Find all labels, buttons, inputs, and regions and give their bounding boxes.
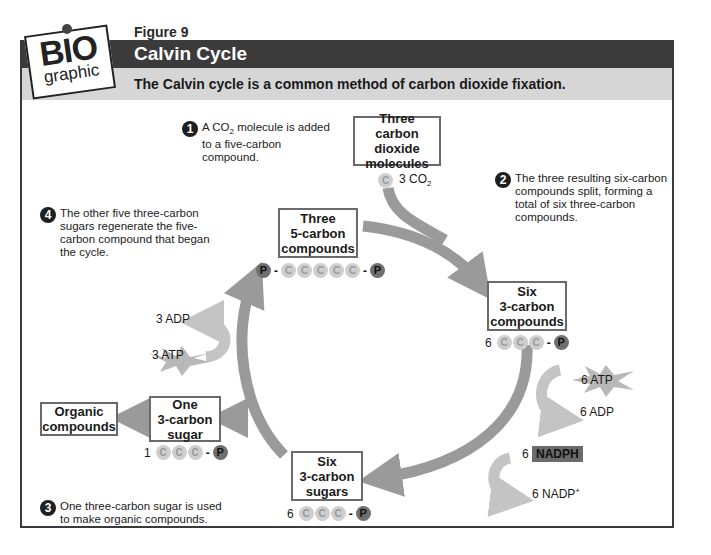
atp6-label: 6 ATP <box>581 373 613 387</box>
six-compounds-box: Six3-carboncompounds <box>487 281 567 331</box>
step-4-number: 4 <box>40 207 56 223</box>
atp3-label: 3 ATP <box>152 348 184 362</box>
nadp-label: 6 NADP+ <box>532 486 580 501</box>
organic-compounds-box: Organiccompounds <box>40 402 118 436</box>
one-sugar-box: One3-carbonsugar <box>149 396 221 442</box>
six-sugars-molecule: 6 CCC -P <box>287 506 371 521</box>
arrow-sugars-to-five <box>242 282 284 455</box>
step-3-number: 3 <box>40 500 56 516</box>
atp3-arrow <box>202 322 225 357</box>
step-2-note: 2 The three resulting six-carbon compoun… <box>495 172 670 224</box>
co2-molecules-box: Threecarbon dioxidemolecules <box>353 116 441 166</box>
adp3-label: 3 ADP <box>156 312 190 326</box>
nadph-arrow <box>494 458 512 498</box>
five-carbon-molecule: P- CCCCC -P <box>256 263 385 278</box>
adp6-label: 6 ADP <box>580 405 614 419</box>
step-1-number: 1 <box>182 121 198 137</box>
five-carbon-box: Three5-carboncompounds <box>278 208 358 258</box>
co2-molecule: C 3 CO2 <box>378 172 431 188</box>
step-4-note: 4 The other five three-carbon sugars reg… <box>40 207 215 259</box>
nadph-label: 6 NADPH <box>522 447 583 461</box>
step-2-number: 2 <box>495 172 511 188</box>
arrow-to-one-sugar <box>228 416 246 418</box>
carbon-atom: C <box>378 173 393 188</box>
atp6-arrow <box>541 370 562 418</box>
six-sugars-box: Six3-carbonsugars <box>291 451 363 501</box>
one-sugar-molecule: 1 CCC -P <box>144 445 228 460</box>
step-3-note: 3 One three-carbon sugar is used to make… <box>40 500 230 526</box>
six-compounds-molecule: 6 CCC -P <box>485 335 569 350</box>
step-1-note: 1 A CO2 molecule is added to a five-carb… <box>182 121 332 164</box>
